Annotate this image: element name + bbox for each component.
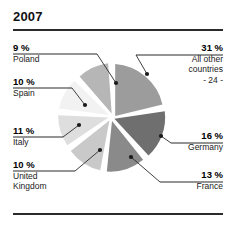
slice-percent-germany: 16 % xyxy=(188,131,223,142)
slice-name-poland: Poland xyxy=(13,54,39,65)
leader-dot-spain xyxy=(83,103,87,107)
slice-label-all-other-countries[interactable]: 31 % All other countries - 24 - xyxy=(189,43,224,85)
slice-percent-italy: 11 % xyxy=(13,126,34,137)
slice-name-all-other-countries-line2: countries xyxy=(189,64,224,75)
slice-name-all-other-countries-line1: All other xyxy=(189,54,224,65)
pie-slice-all-other-countries[interactable] xyxy=(115,64,162,116)
slice-name-germany: Germany xyxy=(188,142,223,153)
leader-dot-germany xyxy=(159,134,163,138)
slice-percent-spain: 10 % xyxy=(13,77,35,88)
slice-label-france[interactable]: 13 % France xyxy=(197,170,223,191)
bottom-divider-rule xyxy=(13,213,223,215)
slice-label-poland[interactable]: 9 % Poland xyxy=(13,43,39,64)
slice-percent-united-kingdom: 10 % xyxy=(13,160,47,171)
slice-name-spain: Spain xyxy=(13,88,35,99)
slice-note-all-other-countries: - 24 - xyxy=(189,75,224,86)
slice-name-italy: Italy xyxy=(13,137,34,148)
slice-percent-poland: 9 % xyxy=(13,43,39,54)
pie-chart-figure: 2007 xyxy=(0,0,236,227)
slice-label-germany[interactable]: 16 % Germany xyxy=(188,131,223,152)
leader-dot-all-other-countries xyxy=(145,72,149,76)
leader-dot-italy xyxy=(77,123,81,127)
pie-chart-graphic xyxy=(0,0,236,227)
slice-name-united-kingdom-line2: Kingdom xyxy=(13,181,47,192)
leader-dot-poland xyxy=(114,81,118,85)
slice-label-italy[interactable]: 11 % Italy xyxy=(13,126,34,147)
slice-label-spain[interactable]: 10 % Spain xyxy=(13,77,35,98)
slice-name-united-kingdom-line1: United xyxy=(13,171,47,182)
slice-name-france: France xyxy=(197,181,223,192)
leader-dot-france xyxy=(129,155,133,159)
slice-label-united-kingdom[interactable]: 10 % United Kingdom xyxy=(13,160,47,192)
slice-percent-france: 13 % xyxy=(197,170,223,181)
slice-percent-all-other-countries: 31 % xyxy=(189,43,224,54)
leader-dot-united-kingdom xyxy=(98,148,102,152)
